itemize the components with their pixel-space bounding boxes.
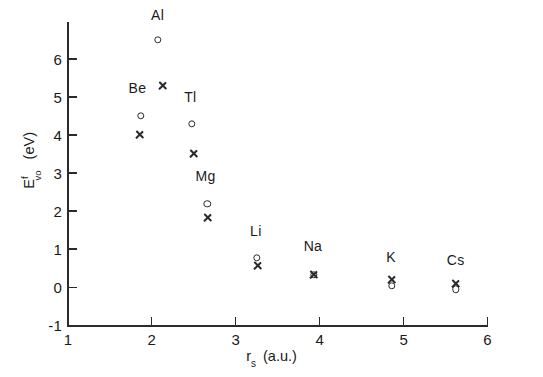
- x-tick-mark: [235, 317, 237, 326]
- x-tick-label: 1: [64, 331, 72, 348]
- y-tick-label: 6: [0, 50, 69, 67]
- data-point-circle-tl: [188, 120, 195, 127]
- element-label-tl: Tl: [184, 89, 196, 105]
- x-axis-line: [67, 325, 488, 327]
- data-point-cross-li: [253, 261, 262, 270]
- data-point-cross-mg: [203, 213, 212, 222]
- x-tick-mark: [151, 317, 153, 326]
- y-axis-title-subscript: vo: [31, 170, 42, 180]
- element-label-cs: Cs: [447, 252, 465, 268]
- scatter-plot-figure: -10123456 123456 AlBeTlMgLiNaKCs Efvo(eV…: [0, 0, 543, 377]
- data-point-circle-mg: [203, 200, 210, 207]
- x-axis-title-subscript: s: [251, 358, 256, 369]
- data-point-circle-be: [137, 112, 144, 119]
- data-point-cross-tl: [189, 149, 198, 158]
- x-tick-label: 3: [232, 331, 240, 348]
- y-axis-title-superscript: f: [19, 176, 30, 179]
- y-tick-label: 0: [0, 279, 69, 296]
- x-tick-label: 5: [399, 331, 407, 348]
- y-tick-mark: [68, 287, 77, 289]
- data-point-cross-k: [387, 275, 396, 284]
- y-tick-label: -1: [0, 317, 69, 334]
- y-tick-mark: [68, 325, 77, 327]
- element-label-mg: Mg: [195, 168, 215, 184]
- element-label-k: K: [386, 249, 396, 265]
- x-tick-mark: [403, 317, 405, 326]
- y-tick-mark: [68, 210, 77, 212]
- x-tick-label: 2: [148, 331, 156, 348]
- element-label-al: Al: [151, 7, 164, 23]
- x-tick-mark: [487, 317, 489, 326]
- y-tick-mark: [68, 58, 77, 60]
- x-tick-label: 6: [483, 331, 491, 348]
- element-label-li: Li: [250, 223, 262, 239]
- element-label-be: Be: [129, 80, 147, 96]
- y-tick-mark: [68, 172, 77, 174]
- y-axis-title: Efvo(eV): [20, 90, 41, 230]
- x-tick-mark: [319, 317, 321, 326]
- element-label-na: Na: [304, 238, 323, 254]
- data-point-cross-na: [309, 270, 318, 279]
- y-tick-label: 1: [0, 241, 69, 258]
- data-point-cross-be: [135, 130, 144, 139]
- y-tick-mark: [68, 96, 77, 98]
- x-tick-label: 4: [315, 331, 323, 348]
- x-axis-title: rs(a.u.): [0, 348, 543, 367]
- y-tick-mark: [68, 248, 77, 250]
- data-point-circle-al: [154, 36, 161, 43]
- data-point-cross-cs: [451, 279, 460, 288]
- y-tick-mark: [68, 134, 77, 136]
- data-point-cross-al: [158, 81, 167, 90]
